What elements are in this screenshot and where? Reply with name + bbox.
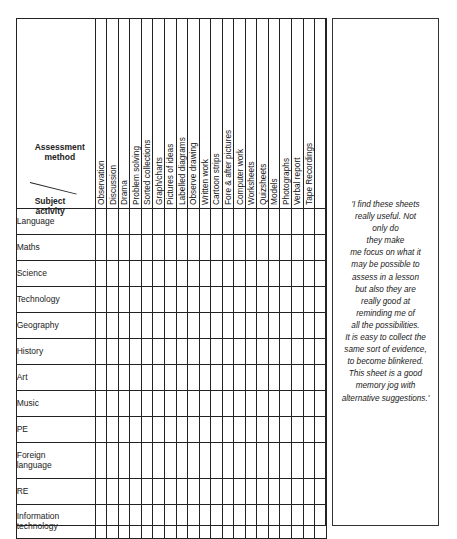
checkbox-cell[interactable] xyxy=(268,416,280,442)
checkbox-cell[interactable] xyxy=(211,504,223,538)
checkbox-cell[interactable] xyxy=(245,442,257,478)
checkbox-cell[interactable] xyxy=(118,234,130,260)
checkbox-cell[interactable] xyxy=(107,286,119,312)
checkbox-cell[interactable] xyxy=(234,478,246,504)
checkbox-cell[interactable] xyxy=(245,286,257,312)
checkbox-cell[interactable] xyxy=(118,312,130,338)
checkbox-cell[interactable] xyxy=(315,442,327,478)
checkbox-cell[interactable] xyxy=(292,364,304,390)
checkbox-cell[interactable] xyxy=(245,390,257,416)
checkbox-cell[interactable] xyxy=(211,338,223,364)
checkbox-cell[interactable] xyxy=(292,416,304,442)
checkbox-cell[interactable] xyxy=(199,286,211,312)
checkbox-cell[interactable] xyxy=(130,442,142,478)
checkbox-cell[interactable] xyxy=(164,364,176,390)
checkbox-cell[interactable] xyxy=(118,442,130,478)
checkbox-cell[interactable] xyxy=(222,234,234,260)
checkbox-cell[interactable] xyxy=(303,504,315,538)
checkbox-cell[interactable] xyxy=(188,312,200,338)
checkbox-cell[interactable] xyxy=(211,478,223,504)
checkbox-cell[interactable] xyxy=(257,364,269,390)
checkbox-cell[interactable] xyxy=(222,390,234,416)
checkbox-cell[interactable] xyxy=(245,416,257,442)
checkbox-cell[interactable] xyxy=(234,260,246,286)
checkbox-cell[interactable] xyxy=(107,260,119,286)
checkbox-cell[interactable] xyxy=(153,504,165,538)
checkbox-cell[interactable] xyxy=(303,416,315,442)
checkbox-cell[interactable] xyxy=(107,390,119,416)
checkbox-cell[interactable] xyxy=(107,416,119,442)
checkbox-cell[interactable] xyxy=(176,504,188,538)
checkbox-cell[interactable] xyxy=(257,338,269,364)
checkbox-cell[interactable] xyxy=(176,478,188,504)
checkbox-cell[interactable] xyxy=(176,416,188,442)
checkbox-cell[interactable] xyxy=(280,442,292,478)
checkbox-cell[interactable] xyxy=(153,364,165,390)
checkbox-cell[interactable] xyxy=(153,390,165,416)
checkbox-cell[interactable] xyxy=(95,234,107,260)
checkbox-cell[interactable] xyxy=(292,478,304,504)
checkbox-cell[interactable] xyxy=(292,286,304,312)
checkbox-cell[interactable] xyxy=(245,478,257,504)
checkbox-cell[interactable] xyxy=(280,364,292,390)
checkbox-cell[interactable] xyxy=(107,312,119,338)
checkbox-cell[interactable] xyxy=(164,260,176,286)
checkbox-cell[interactable] xyxy=(130,338,142,364)
checkbox-cell[interactable] xyxy=(141,478,153,504)
checkbox-cell[interactable] xyxy=(268,286,280,312)
checkbox-cell[interactable] xyxy=(257,504,269,538)
checkbox-cell[interactable] xyxy=(118,416,130,442)
checkbox-cell[interactable] xyxy=(107,442,119,478)
checkbox-cell[interactable] xyxy=(211,364,223,390)
checkbox-cell[interactable] xyxy=(188,338,200,364)
checkbox-cell[interactable] xyxy=(188,390,200,416)
checkbox-cell[interactable] xyxy=(164,504,176,538)
checkbox-cell[interactable] xyxy=(234,312,246,338)
checkbox-cell[interactable] xyxy=(211,390,223,416)
checkbox-cell[interactable] xyxy=(268,234,280,260)
checkbox-cell[interactable] xyxy=(188,260,200,286)
checkbox-cell[interactable] xyxy=(141,416,153,442)
checkbox-cell[interactable] xyxy=(234,338,246,364)
checkbox-cell[interactable] xyxy=(234,208,246,234)
checkbox-cell[interactable] xyxy=(164,442,176,478)
checkbox-cell[interactable] xyxy=(130,390,142,416)
checkbox-cell[interactable] xyxy=(303,364,315,390)
checkbox-cell[interactable] xyxy=(95,286,107,312)
checkbox-cell[interactable] xyxy=(303,390,315,416)
checkbox-cell[interactable] xyxy=(164,208,176,234)
checkbox-cell[interactable] xyxy=(176,312,188,338)
checkbox-cell[interactable] xyxy=(199,364,211,390)
checkbox-cell[interactable] xyxy=(257,416,269,442)
checkbox-cell[interactable] xyxy=(199,260,211,286)
checkbox-cell[interactable] xyxy=(141,364,153,390)
checkbox-cell[interactable] xyxy=(188,478,200,504)
checkbox-cell[interactable] xyxy=(118,338,130,364)
checkbox-cell[interactable] xyxy=(280,504,292,538)
checkbox-cell[interactable] xyxy=(188,286,200,312)
checkbox-cell[interactable] xyxy=(130,504,142,538)
checkbox-cell[interactable] xyxy=(257,312,269,338)
checkbox-cell[interactable] xyxy=(118,286,130,312)
checkbox-cell[interactable] xyxy=(153,416,165,442)
checkbox-cell[interactable] xyxy=(199,504,211,538)
checkbox-cell[interactable] xyxy=(95,338,107,364)
checkbox-cell[interactable] xyxy=(315,234,327,260)
checkbox-cell[interactable] xyxy=(107,234,119,260)
checkbox-cell[interactable] xyxy=(280,312,292,338)
checkbox-cell[interactable] xyxy=(303,286,315,312)
checkbox-cell[interactable] xyxy=(268,260,280,286)
checkbox-cell[interactable] xyxy=(107,338,119,364)
checkbox-cell[interactable] xyxy=(130,312,142,338)
checkbox-cell[interactable] xyxy=(141,504,153,538)
checkbox-cell[interactable] xyxy=(280,286,292,312)
checkbox-cell[interactable] xyxy=(130,478,142,504)
checkbox-cell[interactable] xyxy=(315,478,327,504)
checkbox-cell[interactable] xyxy=(107,478,119,504)
checkbox-cell[interactable] xyxy=(280,478,292,504)
checkbox-cell[interactable] xyxy=(95,312,107,338)
checkbox-cell[interactable] xyxy=(222,364,234,390)
checkbox-cell[interactable] xyxy=(257,442,269,478)
checkbox-cell[interactable] xyxy=(292,442,304,478)
checkbox-cell[interactable] xyxy=(95,364,107,390)
